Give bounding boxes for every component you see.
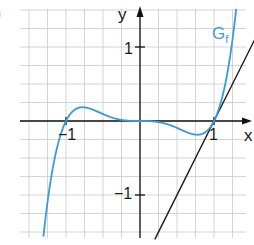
- tick-label-x-neg1: −1: [58, 127, 76, 143]
- curve-label-sub: f: [225, 33, 228, 45]
- x-axis-label: x: [244, 127, 253, 144]
- tick-label-y-neg1: −1: [114, 186, 132, 202]
- tick-label-x-1: 1: [209, 127, 218, 143]
- curve-label-main: G: [212, 24, 225, 43]
- curve-label: Gf: [212, 25, 228, 45]
- part-label: ): [0, 2, 1, 24]
- y-axis-label: y: [118, 6, 127, 23]
- tick-label-y-1: 1: [124, 41, 133, 57]
